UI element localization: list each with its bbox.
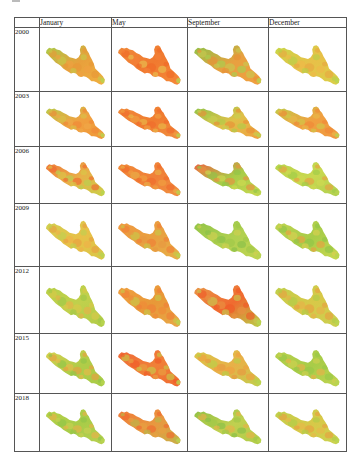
map-cell-september-2000 bbox=[188, 28, 269, 92]
map-cell-january-2012 bbox=[40, 267, 112, 334]
region-map-image bbox=[112, 147, 188, 204]
region-map-image bbox=[40, 394, 112, 452]
map-cell-january-2015 bbox=[40, 334, 112, 394]
map-cell-september-2015 bbox=[188, 334, 269, 394]
map-cell-december-2018 bbox=[269, 394, 347, 452]
region-map-image bbox=[269, 334, 347, 394]
map-cell-december-2003 bbox=[269, 92, 347, 147]
region-map-image bbox=[188, 204, 269, 267]
row-header-year: 2006 bbox=[15, 147, 40, 204]
column-header-may: May bbox=[112, 18, 188, 28]
region-map-image bbox=[269, 204, 347, 267]
region-map-image bbox=[40, 28, 112, 92]
map-cell-december-2006 bbox=[269, 147, 347, 204]
map-cell-january-2003 bbox=[40, 92, 112, 147]
region-map-image bbox=[112, 394, 188, 452]
region-map-image bbox=[269, 394, 347, 452]
map-cell-september-2006 bbox=[188, 147, 269, 204]
map-cell-september-2018 bbox=[188, 394, 269, 452]
year-row-2009: 2009 bbox=[15, 204, 347, 267]
region-map-image bbox=[112, 267, 188, 334]
column-header-january: January bbox=[40, 18, 112, 28]
region-map-image bbox=[269, 267, 347, 334]
map-cell-december-2012 bbox=[269, 267, 347, 334]
corner-cell bbox=[15, 18, 40, 28]
year-row-2000: 2000 bbox=[15, 28, 347, 92]
region-map-image bbox=[269, 147, 347, 204]
year-row-2012: 2012 bbox=[15, 267, 347, 334]
map-cell-may-2009 bbox=[112, 204, 188, 267]
map-cell-may-2012 bbox=[112, 267, 188, 334]
region-map-image bbox=[188, 28, 269, 92]
figure-caption-fragment bbox=[12, 0, 20, 2]
region-map-image bbox=[188, 267, 269, 334]
map-cell-may-2018 bbox=[112, 394, 188, 452]
header-row: January May September December bbox=[15, 18, 347, 28]
row-header-year: 2015 bbox=[15, 334, 40, 394]
region-map-image bbox=[112, 334, 188, 394]
row-header-year: 2003 bbox=[15, 92, 40, 147]
map-cell-may-2000 bbox=[112, 28, 188, 92]
map-cell-september-2003 bbox=[188, 92, 269, 147]
region-map-image bbox=[112, 204, 188, 267]
row-header-year: 2009 bbox=[15, 204, 40, 267]
row-header-year: 2018 bbox=[15, 394, 40, 452]
region-map-image bbox=[188, 92, 269, 147]
region-map-image bbox=[40, 334, 112, 394]
region-map-image bbox=[112, 92, 188, 147]
map-cell-may-2003 bbox=[112, 92, 188, 147]
column-header-december: December bbox=[269, 18, 347, 28]
map-cell-december-2000 bbox=[269, 28, 347, 92]
region-map-image bbox=[40, 147, 112, 204]
region-map-image bbox=[112, 28, 188, 92]
map-cell-september-2012 bbox=[188, 267, 269, 334]
region-map-image bbox=[40, 267, 112, 334]
row-header-year: 2012 bbox=[15, 267, 40, 334]
year-row-2003: 2003 bbox=[15, 92, 347, 147]
map-cell-december-2015 bbox=[269, 334, 347, 394]
year-row-2015: 2015 bbox=[15, 334, 347, 394]
map-cell-january-2006 bbox=[40, 147, 112, 204]
region-map-image bbox=[269, 92, 347, 147]
column-header-september: September bbox=[188, 18, 269, 28]
region-map-image bbox=[269, 28, 347, 92]
map-cell-january-2000 bbox=[40, 28, 112, 92]
year-row-2018: 2018 bbox=[15, 394, 347, 452]
map-cell-january-2009 bbox=[40, 204, 112, 267]
region-map-image bbox=[188, 394, 269, 452]
row-header-year: 2000 bbox=[15, 28, 40, 92]
map-cell-may-2015 bbox=[112, 334, 188, 394]
year-row-2006: 2006 bbox=[15, 147, 347, 204]
map-cell-may-2006 bbox=[112, 147, 188, 204]
region-map-image bbox=[188, 147, 269, 204]
region-map-image bbox=[40, 204, 112, 267]
map-cell-december-2009 bbox=[269, 204, 347, 267]
map-cell-january-2018 bbox=[40, 394, 112, 452]
region-map-image bbox=[188, 334, 269, 394]
seasonal-map-grid: January May September December 200020032… bbox=[14, 17, 347, 452]
map-cell-september-2009 bbox=[188, 204, 269, 267]
region-map-image bbox=[40, 92, 112, 147]
